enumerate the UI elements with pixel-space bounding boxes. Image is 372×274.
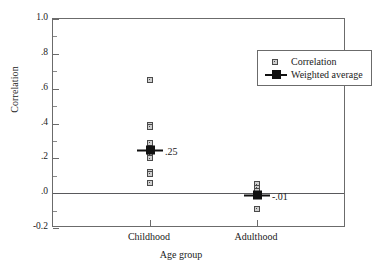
y-tick-major <box>53 228 59 229</box>
weighted-average-value-label: .25 <box>165 145 178 156</box>
chart-legend: Correlation Weighted average <box>257 50 372 86</box>
y-tick-label: .4 <box>8 118 48 128</box>
y-tick-minor <box>53 71 57 72</box>
x-tick-label: Childhood <box>104 231 194 242</box>
y-tick-label: .6 <box>8 83 48 93</box>
data-point-correlation <box>147 124 153 130</box>
data-point-correlation <box>147 77 153 83</box>
legend-item-weighted-average: Weighted average <box>264 68 363 81</box>
y-tick-major <box>53 89 59 90</box>
weighted-average-marker-icon <box>264 69 288 80</box>
weighted-average-value-label: -.01 <box>272 190 288 201</box>
y-tick-label: .0 <box>8 187 48 197</box>
legend-item-correlation: Correlation <box>264 55 363 68</box>
y-tick-major <box>53 158 59 159</box>
y-tick-minor <box>53 106 57 107</box>
y-tick-major <box>53 124 59 125</box>
y-tick-minor <box>53 141 57 142</box>
y-tick-label: 1.0 <box>8 13 48 23</box>
legend-label-correlation: Correlation <box>288 56 337 67</box>
data-point-correlation <box>147 180 153 186</box>
y-tick-label: .8 <box>8 48 48 58</box>
zero-line <box>53 193 344 194</box>
x-tick-label: Adulthood <box>211 231 301 242</box>
y-tick-label: .2 <box>8 152 48 162</box>
data-point-correlation <box>147 155 153 161</box>
open-square-marker-icon <box>264 56 288 67</box>
y-tick-major <box>53 54 59 55</box>
y-tick-minor <box>53 36 57 37</box>
weighted-average-marker <box>137 145 163 154</box>
x-tick <box>150 220 151 226</box>
y-tick-label: -0.2 <box>8 222 48 232</box>
x-axis-title: Age group <box>0 249 362 260</box>
weighted-average-marker <box>244 190 270 199</box>
data-point-correlation <box>147 171 153 177</box>
y-tick-major <box>53 19 59 20</box>
y-tick-minor <box>53 176 57 177</box>
y-tick-minor <box>53 211 57 212</box>
plot-area: .25-.01 Correlation Weighted average <box>52 18 345 227</box>
data-point-correlation <box>254 206 260 212</box>
legend-label-weighted-average: Weighted average <box>288 69 363 80</box>
x-tick <box>257 220 258 226</box>
